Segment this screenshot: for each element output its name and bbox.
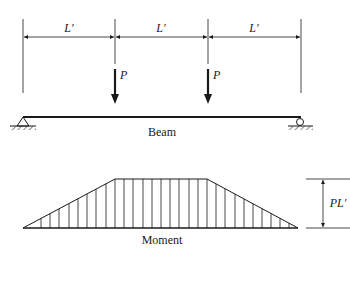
max-moment-label: PL′ [329,196,347,210]
roller-support [288,119,313,131]
load-label-1: P [119,68,128,82]
load-label-2: P [212,68,221,82]
beam [23,116,301,118]
load-arrow-1 [111,69,119,104]
load-arrow-2 [204,69,212,104]
pin-support [10,117,36,130]
arrow-down-icon [204,94,212,104]
moment-diagram [23,179,298,228]
span-label-2: L′ [155,21,166,35]
beam-label: Beam [148,125,177,139]
span-label-1: L′ [63,21,74,35]
span-label-3: L′ [248,21,259,35]
beam-moment-diagram: L′ L′ L′ P P Beam [0,0,350,303]
arrow-down-icon [111,94,119,104]
moment-label: Moment [142,233,183,247]
